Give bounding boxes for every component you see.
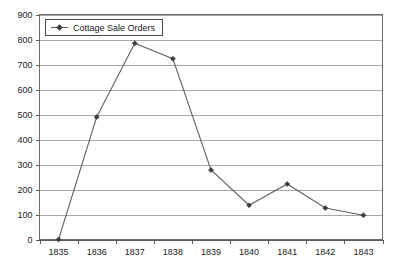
series-line-path	[59, 43, 364, 239]
y-tick-label-100: 100	[17, 210, 32, 220]
data-point-1842	[323, 205, 328, 210]
x-tick-label-1841: 1841	[277, 247, 297, 257]
line-chart-container: 0100200300400500600700800900 18351836183…	[0, 0, 401, 268]
y-tick-label-900: 900	[17, 10, 32, 20]
x-tick-label-1842: 1842	[315, 247, 335, 257]
y-tick-label-600: 600	[17, 85, 32, 95]
x-tick-label-1843: 1843	[353, 247, 373, 257]
y-tick-label-800: 800	[17, 35, 32, 45]
plot-frame	[40, 15, 383, 240]
legend-entry-label: Cottage Sale Orders	[73, 23, 156, 33]
data-point-1837	[132, 41, 137, 46]
x-axis-tick-labels: 183518361837183818391840184118421843	[49, 247, 374, 257]
series-markers-group	[56, 41, 366, 242]
y-axis-tick-labels: 0100200300400500600700800900	[17, 10, 32, 245]
gridlines-group	[40, 16, 383, 241]
data-point-1841	[285, 181, 290, 186]
x-tick-label-1838: 1838	[163, 247, 183, 257]
chart-canvas: 0100200300400500600700800900 18351836183…	[0, 0, 401, 268]
x-tick-label-1840: 1840	[239, 247, 259, 257]
y-tick-label-300: 300	[17, 160, 32, 170]
x-tick-label-1835: 1835	[49, 247, 69, 257]
data-series-cottage-sale-orders	[56, 41, 366, 242]
data-point-1843	[361, 213, 366, 218]
data-point-1835	[56, 237, 61, 242]
y-tick-label-500: 500	[17, 110, 32, 120]
x-tick-label-1836: 1836	[87, 247, 107, 257]
data-point-1838	[170, 56, 175, 61]
y-tick-label-0: 0	[27, 235, 32, 245]
y-tick-label-400: 400	[17, 135, 32, 145]
x-tick-label-1839: 1839	[201, 247, 221, 257]
y-tick-label-700: 700	[17, 60, 32, 70]
chart-legend[interactable]: Cottage Sale Orders	[46, 20, 163, 36]
x-tick-label-1837: 1837	[125, 247, 145, 257]
y-tick-label-200: 200	[17, 185, 32, 195]
